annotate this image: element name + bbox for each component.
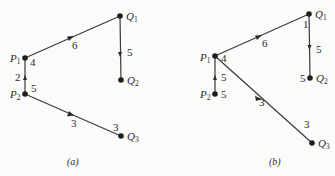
node-a-q3	[118, 133, 124, 139]
arrow-head-icon	[308, 45, 312, 50]
node-b-p2	[212, 91, 218, 97]
node-label-b-p2: P2	[199, 88, 211, 102]
node-label-b-q2: Q2	[316, 72, 328, 86]
node-b-q1	[306, 11, 312, 17]
edge-label-a-q1-q2: 5	[127, 46, 133, 58]
node-label-a-q1: Q1	[126, 10, 138, 24]
node-weight-a-p2: 5	[31, 82, 37, 94]
node-b-q2	[307, 75, 313, 81]
node-weight-a-q3: 3	[113, 121, 119, 133]
edge-a-q1-q2	[120, 16, 121, 80]
edge-label-b-p1-q1: 6	[262, 37, 268, 49]
edge-label-a-p2-q3: 3	[71, 117, 77, 129]
arrow-head-icon	[118, 52, 122, 57]
arrow-head-icon	[23, 75, 27, 80]
node-a-q1	[117, 13, 123, 19]
node-a-p2	[22, 91, 28, 97]
node-weight-b-p1: 4	[221, 52, 227, 64]
edge-label-b-q1-q2: 5	[316, 43, 322, 55]
node-weight-b-q3: 3	[304, 118, 310, 130]
arrow-head-icon	[213, 75, 217, 80]
node-b-q3	[309, 140, 315, 146]
edge-label-b-p2-p1: 5	[221, 71, 227, 83]
diagram-b: P1 P2 Q1 Q2 Q3 4 5 1 5 3 6 5 5 3 (b)	[199, 8, 330, 168]
node-a-q2	[118, 77, 124, 83]
node-label-a-p2: P2	[9, 88, 21, 102]
node-label-a-q3: Q3	[127, 130, 139, 144]
node-label-a-q2: Q2	[127, 74, 139, 88]
node-label-b-p1: P1	[199, 51, 211, 65]
arrow-head-icon	[255, 35, 262, 40]
node-b-p1	[212, 53, 218, 59]
edge-label-a-p1-q1: 6	[72, 39, 78, 51]
node-weight-b-p2: 5	[221, 88, 227, 100]
edge-label-a-p2-p1: 2	[15, 71, 21, 83]
arrow-head-icon	[67, 111, 74, 117]
node-label-b-q3: Q3	[318, 137, 330, 151]
diagram-a: P1 P2 Q1 Q2 Q3 4 5 3 6 5 2 3 (a)	[9, 10, 139, 168]
edge-label-b-p1-q3: 3	[259, 96, 265, 108]
node-label-a-p1: P1	[9, 52, 21, 66]
node-weight-b-q1: 1	[303, 18, 309, 30]
caption-a: (a)	[67, 156, 79, 168]
caption-b: (b)	[269, 156, 281, 168]
node-weight-a-p1: 4	[30, 56, 36, 68]
flow-diagrams: P1 P2 Q1 Q2 Q3 4 5 3 6 5 2 3 (a)	[0, 0, 335, 176]
node-label-b-q1: Q1	[315, 8, 327, 22]
node-a-p1	[22, 55, 28, 61]
node-weight-b-q2: 5	[300, 72, 306, 84]
